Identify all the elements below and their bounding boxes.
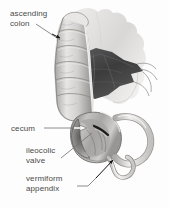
label-vermiform-appendix-line2: appendix (26, 184, 62, 194)
label-ascending-colon-line2: colon (10, 19, 47, 29)
ascending-colon (54, 12, 93, 121)
anatomy-figure: ascending colon cecum ileocolic valve ve… (0, 0, 169, 208)
label-vermiform-appendix-line1: vermiform (26, 174, 62, 184)
label-cecum-text: cecum (11, 124, 35, 134)
label-ileocolic-valve: ileocolic valve (26, 146, 55, 165)
label-ascending-colon-line1: ascending (10, 9, 47, 19)
label-ascending-colon: ascending colon (10, 9, 47, 28)
label-vermiform-appendix: vermiform appendix (26, 174, 62, 193)
label-ileocolic-valve-line2: valve (26, 156, 55, 166)
label-cecum: cecum (11, 124, 35, 134)
label-ileocolic-valve-line1: ileocolic (26, 146, 55, 156)
